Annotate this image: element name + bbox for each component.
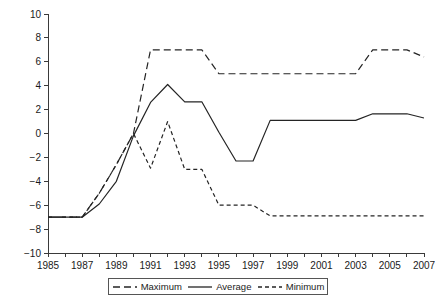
chart-figure: 1086420−2−4−6−8−10 198519871989199119931… [0, 0, 435, 307]
legend-label-minimum: Minimum [286, 281, 325, 292]
svg-text:2005: 2005 [379, 260, 402, 271]
series-maximum [48, 50, 424, 217]
svg-text:1985: 1985 [37, 260, 60, 271]
svg-text:−4: −4 [30, 176, 42, 187]
chart-tick-marks [44, 14, 424, 257]
chart-legend: Maximum Average Minimum [108, 278, 328, 295]
x-axis-tick-labels: 1985198719891991199319951997199920012003… [37, 260, 435, 271]
svg-text:10: 10 [30, 9, 42, 20]
svg-text:1993: 1993 [174, 260, 197, 271]
legend-item-maximum: Maximum [112, 281, 182, 292]
svg-text:2003: 2003 [345, 260, 368, 271]
legend-label-average: Average [216, 281, 251, 292]
svg-text:0: 0 [35, 128, 41, 139]
svg-text:2007: 2007 [413, 260, 435, 271]
legend-item-average: Average [187, 281, 251, 292]
svg-text:−10: −10 [24, 248, 41, 259]
svg-text:1995: 1995 [208, 260, 231, 271]
svg-text:−8: −8 [30, 224, 42, 235]
series-average [48, 85, 424, 218]
svg-text:1989: 1989 [105, 260, 128, 271]
svg-text:1999: 1999 [276, 260, 299, 271]
series-minimum [48, 122, 424, 218]
legend-label-maximum: Maximum [141, 281, 182, 292]
svg-text:4: 4 [35, 80, 41, 91]
legend-swatch-average [187, 283, 213, 291]
legend-swatch-maximum [112, 283, 138, 291]
svg-text:−2: −2 [30, 152, 42, 163]
legend-item-minimum: Minimum [257, 281, 325, 292]
chart-series-lines [48, 50, 424, 217]
svg-text:8: 8 [35, 32, 41, 43]
svg-text:−6: −6 [30, 200, 42, 211]
line-chart-plot: 1086420−2−4−6−8−10 198519871989199119931… [0, 0, 435, 307]
y-axis-tick-labels: 1086420−2−4−6−8−10 [24, 9, 41, 259]
chart-axes [48, 14, 424, 253]
svg-text:1987: 1987 [71, 260, 94, 271]
svg-text:2: 2 [35, 104, 41, 115]
svg-text:1997: 1997 [242, 260, 265, 271]
legend-swatch-minimum [257, 283, 283, 291]
svg-text:1991: 1991 [139, 260, 162, 271]
svg-text:6: 6 [35, 56, 41, 67]
svg-text:2001: 2001 [310, 260, 333, 271]
